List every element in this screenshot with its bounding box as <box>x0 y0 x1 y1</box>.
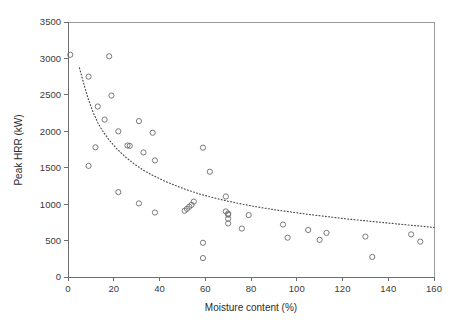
y-tick-label: 2000 <box>40 126 61 137</box>
data-point-marker <box>363 234 368 239</box>
y-axis-title: Peak HRR (kW) <box>13 114 24 185</box>
x-tick-label: 40 <box>154 283 165 294</box>
y-tick-label: 2500 <box>40 89 61 100</box>
data-point-marker <box>200 145 205 150</box>
y-axis-ticks: 0500100015002000250030003500 <box>40 16 68 282</box>
trend-curve <box>79 68 434 228</box>
x-tick-label: 120 <box>335 283 351 294</box>
x-tick-label: 0 <box>65 283 70 294</box>
data-point-marker <box>418 239 423 244</box>
data-point-marker <box>246 212 251 217</box>
y-tick-label: 3000 <box>40 53 61 64</box>
data-point-marker <box>200 255 205 260</box>
x-tick-label: 100 <box>289 283 305 294</box>
data-point-marker <box>86 163 91 168</box>
x-tick-label: 80 <box>246 283 257 294</box>
data-point-marker <box>152 210 157 215</box>
data-point-marker <box>223 194 228 199</box>
x-tick-label: 160 <box>426 283 442 294</box>
data-point-marker <box>116 129 121 134</box>
x-axis-ticks: 020406080100120140160 <box>65 277 442 294</box>
data-point-marker <box>150 130 155 135</box>
data-point-marker <box>136 201 141 206</box>
plot-frame <box>68 22 434 277</box>
data-point-marker <box>317 237 322 242</box>
scatter-plot: 0500100015002000250030003500 02040608010… <box>0 0 455 329</box>
data-point-marker <box>136 118 141 123</box>
data-point-marker <box>109 93 114 98</box>
y-tick-label: 0 <box>56 271 61 282</box>
x-axis-title: Moisture content (%) <box>205 302 297 313</box>
data-point-marker <box>409 232 414 237</box>
y-tick-label: 1500 <box>40 162 61 173</box>
data-point-marker <box>102 117 107 122</box>
data-point-marker <box>141 150 146 155</box>
data-point-marker <box>370 254 375 259</box>
data-point-marker <box>207 169 212 174</box>
data-point-marker <box>86 74 91 79</box>
data-point-marker <box>280 222 285 227</box>
figure-container: 0500100015002000250030003500 02040608010… <box>0 0 455 329</box>
data-point-marker <box>116 190 121 195</box>
data-point-marker <box>239 226 244 231</box>
y-tick-label: 1000 <box>40 199 61 210</box>
data-point-marker <box>152 158 157 163</box>
data-point-marker <box>285 235 290 240</box>
data-point-marker <box>200 240 205 245</box>
x-tick-label: 60 <box>200 283 211 294</box>
y-tick-label: 3500 <box>40 16 61 27</box>
data-point-marker <box>107 54 112 59</box>
data-point-marker <box>95 104 100 109</box>
x-tick-label: 140 <box>380 283 396 294</box>
y-tick-label: 500 <box>45 235 61 246</box>
data-point-marker <box>306 227 311 232</box>
x-tick-label: 20 <box>108 283 119 294</box>
data-points <box>68 52 423 260</box>
data-point-marker <box>324 230 329 235</box>
data-point-marker <box>93 145 98 150</box>
